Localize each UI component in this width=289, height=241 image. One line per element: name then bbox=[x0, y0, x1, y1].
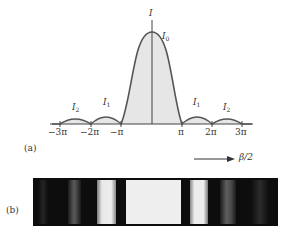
label-right-i2: I2 bbox=[223, 102, 230, 113]
fringe-far-left bbox=[38, 180, 48, 224]
diffraction-fringe-photo bbox=[33, 178, 278, 226]
arrow-label: β/2 bbox=[239, 152, 253, 162]
panel-b-label: (b) bbox=[6, 205, 19, 215]
y-axis-label: I bbox=[149, 8, 153, 18]
fringe-left-2 bbox=[68, 180, 81, 224]
label-left-i2: I2 bbox=[72, 102, 79, 113]
label-sub: 2 bbox=[76, 106, 80, 113]
fringe-central bbox=[126, 180, 181, 224]
tick-label-neg3pi: −3π bbox=[48, 127, 67, 137]
tick-label-neg2pi: −2π bbox=[80, 127, 99, 137]
label-right-i1: I1 bbox=[193, 97, 200, 108]
peak-label: I0 bbox=[162, 31, 169, 42]
fringe-left-1 bbox=[97, 180, 116, 224]
tick-label-negpi: −π bbox=[110, 127, 123, 137]
label-left-i1: I1 bbox=[103, 97, 110, 108]
fringe-right-1 bbox=[190, 180, 208, 224]
tick-label-2pi: 2π bbox=[205, 127, 217, 137]
panel-a-label: (a) bbox=[24, 143, 36, 153]
tick-label-pi: π bbox=[178, 127, 184, 137]
peak-label-sub: 0 bbox=[166, 35, 170, 42]
fringe-far-right bbox=[251, 180, 269, 224]
label-sub: 2 bbox=[227, 106, 231, 113]
fringe-right-2 bbox=[220, 180, 236, 224]
label-sub: 1 bbox=[107, 101, 111, 108]
label-sub: 1 bbox=[197, 101, 201, 108]
tick-label-3pi: 3π bbox=[235, 127, 247, 137]
arrow-right-icon bbox=[194, 154, 236, 164]
